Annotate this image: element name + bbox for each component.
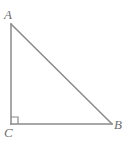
triangle-drawing <box>0 0 129 146</box>
right-angle-marker-icon <box>11 117 18 124</box>
triangle-side-ab-hypotenuse <box>11 24 112 124</box>
vertex-label-a: A <box>4 8 12 21</box>
vertex-label-c: C <box>4 126 13 139</box>
geometry-figure: A B C <box>0 0 129 146</box>
vertex-label-b: B <box>114 118 122 131</box>
